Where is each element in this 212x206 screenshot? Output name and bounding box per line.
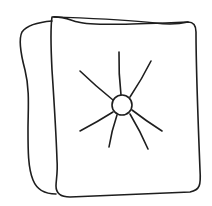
crease-line: [80, 112, 113, 131]
front-cushion-outline: [51, 17, 200, 197]
tuft-button: [112, 95, 132, 115]
crease-line: [132, 110, 162, 131]
crease-line: [130, 61, 151, 97]
tuft-creases: [80, 52, 162, 149]
cushion-illustration: [0, 0, 212, 206]
crease-line: [119, 52, 121, 95]
crease-line: [80, 71, 113, 100]
crease-line: [109, 115, 117, 147]
cushion-icon: [0, 0, 212, 206]
